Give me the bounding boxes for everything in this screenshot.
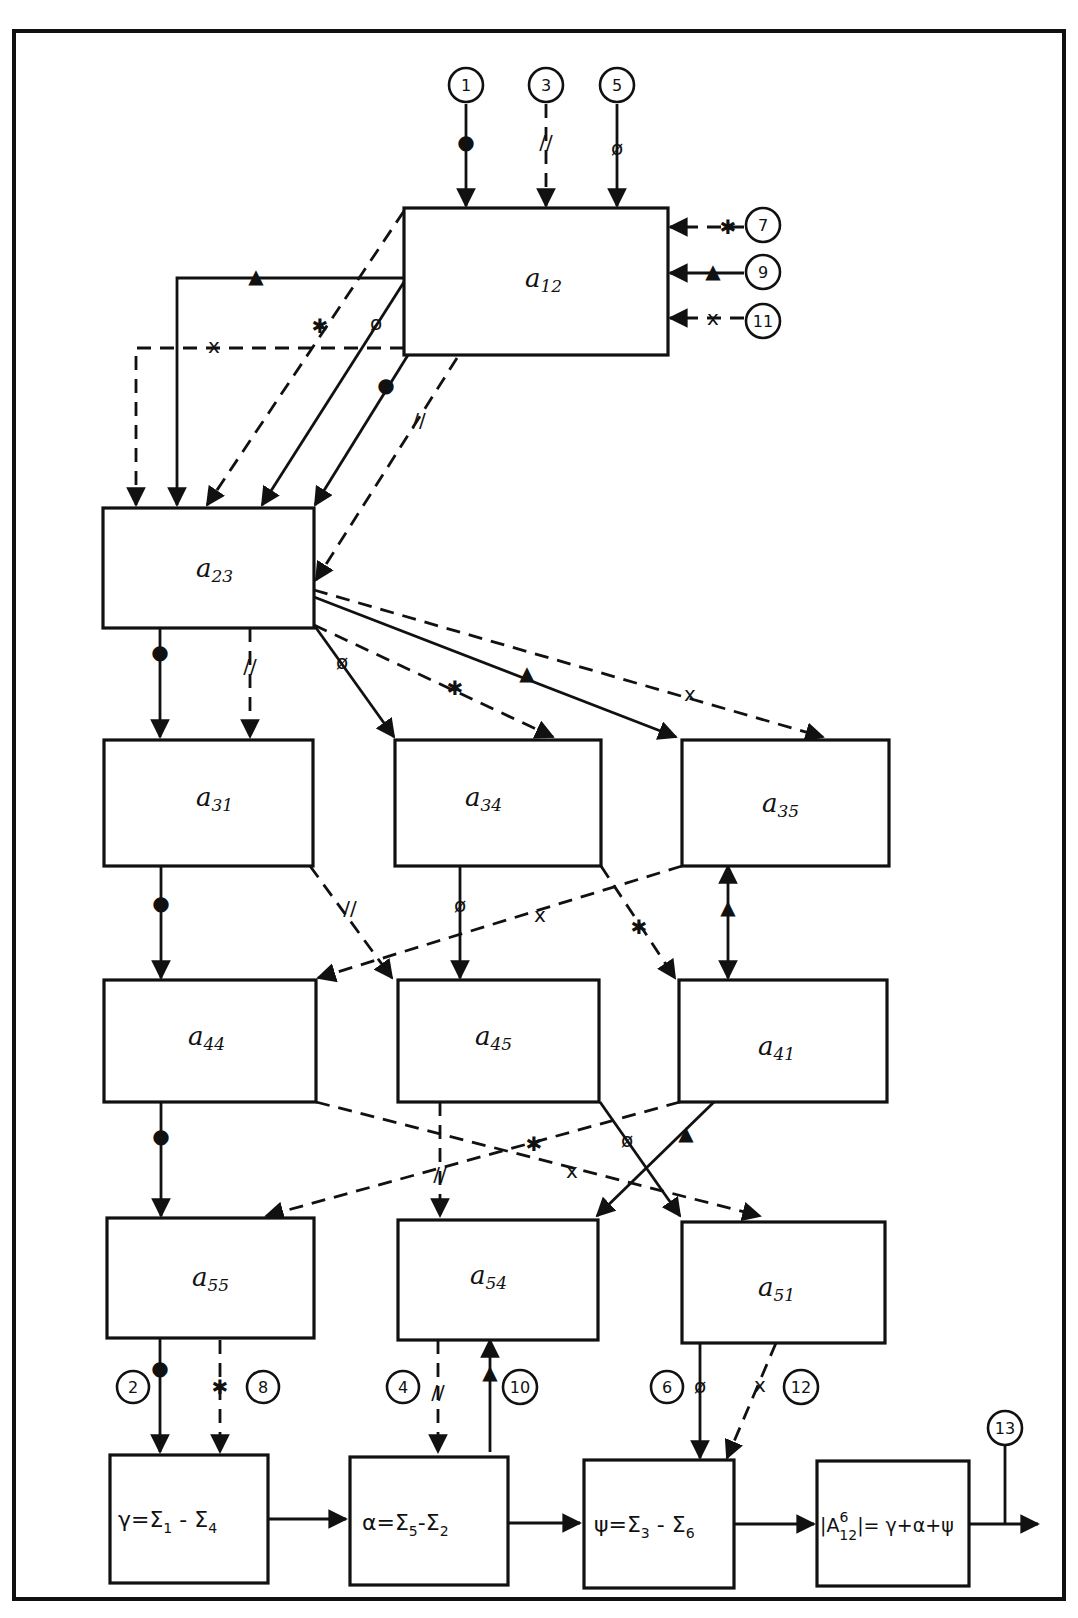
cross-mark-icon: x (566, 1159, 578, 1183)
asterisk-mark-icon: ✱ (212, 1375, 229, 1399)
block-subscript: 35 (778, 801, 800, 821)
svg-text:3: 3 (541, 76, 551, 95)
cross-mark-icon: x (754, 1373, 766, 1397)
triangle-mark-icon: ▲ (248, 264, 264, 288)
cross-mark-icon: x (208, 334, 220, 358)
double-slash-mark-icon: // (412, 408, 426, 432)
block-letter: a (758, 1031, 774, 1061)
double-slash-mark-icon: // (243, 654, 257, 678)
formula-psi: ψ=Σ3 - Σ6 (584, 1460, 734, 1588)
formula-gamma: γ=Σ1 - Σ4 (110, 1455, 268, 1583)
block-a12: a12 (404, 208, 668, 355)
node-11: 11 (746, 304, 780, 338)
svg-text:11: 11 (753, 312, 773, 331)
node-2: 2 (117, 1371, 149, 1403)
block-a55: a55 (107, 1218, 314, 1338)
node-7: 7 (746, 208, 780, 242)
phi-mark-icon: ø (454, 893, 466, 917)
cross-mark-icon: x (534, 903, 546, 927)
svg-text:5: 5 (612, 76, 622, 95)
block-letter: a (465, 782, 481, 812)
dot-mark-icon: ● (377, 373, 394, 397)
node-9: 9 (746, 255, 780, 289)
triangle-mark-icon: ▲ (678, 1121, 694, 1145)
block-letter: a (525, 263, 541, 293)
block-a44: a44 (104, 980, 316, 1102)
dot-mark-icon: ● (152, 891, 169, 915)
block-subscript: 41 (773, 1044, 796, 1064)
block-subscript: 45 (490, 1034, 513, 1054)
block-letter: a (762, 788, 778, 818)
block-letter: a (470, 1260, 486, 1290)
block-subscript: 12 (541, 276, 563, 296)
block-subscript: 23 (211, 566, 234, 586)
node-8: 8 (247, 1371, 279, 1403)
block-subscript: 34 (481, 795, 503, 815)
block-a51: a51 (682, 1222, 885, 1343)
block-subscript: 44 (203, 1034, 226, 1054)
dot-mark-icon: ● (151, 1356, 168, 1380)
block-letter: a (196, 782, 212, 812)
svg-text:4: 4 (398, 1378, 408, 1397)
dot-mark-icon: ● (457, 130, 474, 154)
asterisk-mark-icon: ✱ (526, 1132, 543, 1156)
block-a35: a35 (682, 740, 889, 866)
block-a23: a23 (103, 508, 314, 628)
node-5: 5 (600, 68, 634, 102)
formula-result: |A612|= γ+α+ψ (817, 1461, 969, 1586)
svg-text:12: 12 (791, 1378, 811, 1397)
triangle-mark-icon: ▲ (720, 895, 736, 919)
block-a54: a54 (398, 1220, 598, 1340)
node-12: 12 (784, 1370, 818, 1404)
node-4: 4 (387, 1371, 419, 1403)
phi-mark-icon: ø (336, 650, 348, 674)
block-subscript: 51 (774, 1285, 796, 1305)
formula-alpha: α=Σ5-Σ2 (350, 1457, 508, 1585)
svg-text:2: 2 (128, 1378, 138, 1397)
asterisk-mark-icon: ✱ (312, 314, 329, 338)
phi-mark-icon: ø (370, 311, 382, 335)
double-slash-mark-icon: // (433, 1162, 447, 1186)
svg-text:13: 13 (995, 1419, 1015, 1438)
svg-text:6: 6 (662, 1378, 672, 1397)
block-a45: a45 (398, 980, 599, 1102)
block-letter: a (192, 1262, 208, 1292)
cross-mark-icon: x (707, 306, 719, 330)
triangle-mark-icon: ▲ (705, 259, 721, 283)
block-letter: a (475, 1021, 491, 1051)
cross-mark-icon: x (684, 682, 696, 706)
svg-text:1: 1 (461, 76, 471, 95)
dot-mark-icon: ● (151, 640, 168, 664)
node-1: 1 (449, 68, 483, 102)
node-6: 6 (651, 1371, 683, 1403)
svg-text:α=Σ5-Σ2: α=Σ5-Σ2 (362, 1510, 449, 1539)
triangle-mark-icon: ▲ (519, 661, 535, 685)
block-diagram: ● // ø ✱ ▲ x ▲ x ✱ ø ● // ● // ø ✱ ▲ x ●… (0, 0, 1078, 1618)
block-letter: a (196, 553, 212, 583)
svg-text:9: 9 (758, 263, 768, 282)
block-a34: a34 (395, 740, 601, 866)
block-a41: a41 (679, 980, 887, 1102)
asterisk-mark-icon: ✱ (447, 676, 464, 700)
block-letter: a (758, 1272, 774, 1302)
double-slash-mark-icon: // (539, 130, 553, 154)
asterisk-mark-icon: ✱ (631, 915, 648, 939)
double-slash-mark-icon: // (431, 1380, 445, 1404)
double-slash-mark-icon: // (343, 896, 357, 920)
node-13: 13 (988, 1411, 1022, 1445)
block-subscript: 55 (208, 1275, 230, 1295)
block-subscript: 54 (486, 1273, 508, 1293)
block-a31: a31 (104, 740, 313, 866)
dot-mark-icon: ● (152, 1124, 169, 1148)
phi-mark-icon: ø (694, 1374, 706, 1398)
phi-mark-icon: ø (611, 136, 623, 160)
asterisk-mark-icon: ✱ (720, 215, 737, 239)
svg-text:8: 8 (258, 1378, 268, 1397)
node-10: 10 (503, 1370, 537, 1404)
svg-text:7: 7 (758, 216, 768, 235)
phi-mark-icon: ø (621, 1128, 633, 1152)
svg-text:10: 10 (510, 1378, 530, 1397)
block-letter: a (188, 1021, 204, 1051)
node-3: 3 (529, 68, 563, 102)
block-subscript: 31 (212, 795, 234, 815)
